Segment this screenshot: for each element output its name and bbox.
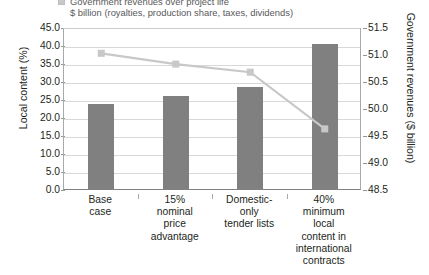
y-axis-left-tick-label: 30.0 [40, 77, 60, 87]
y-axis-right-tick-mark [363, 190, 367, 191]
chart-legend: Government revenues over project life $ … [58, 0, 398, 18]
legend-item-government-revenues: Government revenues over project life [58, 0, 398, 7]
line-marker [247, 69, 254, 76]
legend-label: Government revenues over project life [70, 0, 229, 7]
y-axis-right-tick-label: 49.0 [368, 158, 388, 168]
line-path [101, 53, 325, 129]
y-axis-right-tick-mark [363, 163, 367, 164]
y-axis-left-ticks: 45.040.035.030.025.020.015.010.05.00.0 [18, 28, 60, 190]
y-axis-left-tick-label: 5.0 [46, 167, 60, 177]
y-axis-right-tick-mark [363, 136, 367, 137]
y-axis-left-tick-label: 0.0 [46, 185, 60, 195]
y-axis-right-tick-label: 49.5 [368, 131, 388, 141]
x-axis-categories: Basecase15%nominalpriceadvantageDomestic… [63, 194, 361, 267]
line-marker [172, 61, 179, 68]
y-axis-right-tick-label: 48.5 [368, 185, 388, 195]
line-series [64, 29, 362, 191]
y-axis-right-tick-label: 51.0 [368, 50, 388, 60]
y-axis-left-tick-label: 40.0 [40, 41, 60, 51]
line-marker [321, 125, 328, 132]
y-axis-right-tick-label: 50.0 [368, 104, 388, 114]
y-axis-left-tick-label: 10.0 [40, 149, 60, 159]
x-axis-separator [138, 194, 139, 199]
y-axis-right-tick-mark [363, 109, 367, 110]
y-axis-right-tick-label: 50.5 [368, 77, 388, 87]
line-marker [98, 50, 105, 57]
chart-container: Government revenues over project life $ … [0, 0, 429, 275]
y-axis-right-tick-mark [363, 55, 367, 56]
x-axis-category-label: Basecase [63, 194, 138, 267]
y-axis-left-tick-label: 15.0 [40, 131, 60, 141]
line-square-marker-icon [58, 0, 65, 5]
y-axis-right-tick-mark [363, 82, 367, 83]
plot-area [63, 28, 361, 190]
legend-sublabel: $ billion (royalties, production share, … [70, 7, 398, 18]
y-axis-left-tick-label: 20.0 [40, 113, 60, 123]
y-axis-left-tick-label: 45.0 [40, 23, 60, 33]
y-axis-right-tick-mark [363, 28, 367, 29]
y-axis-left-tick-label: 25.0 [40, 95, 60, 105]
y-axis-right-tick-label: 51.5 [368, 23, 388, 33]
x-axis-category-label: 15%nominalpriceadvantage [138, 194, 213, 267]
y-axis-left-tick-label: 35.0 [40, 59, 60, 69]
x-axis-separator [287, 194, 288, 199]
x-axis-separator [212, 194, 213, 199]
x-axis-category-label: Domestic-onlytender lists [212, 194, 287, 267]
y-axis-right-ticks: 51.551.050.550.049.549.048.5 [368, 28, 408, 190]
x-axis-category-label: 40%minimumlocalcontent ininternationalco… [287, 194, 362, 267]
